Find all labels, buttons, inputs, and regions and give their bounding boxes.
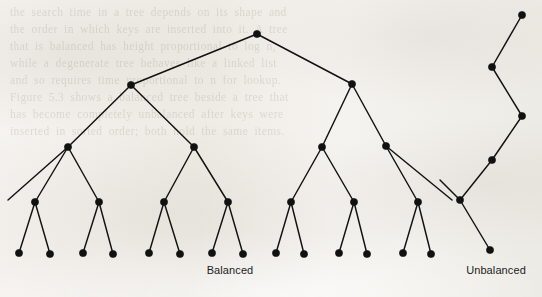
tree-edge (228, 202, 243, 254)
tree-edge (35, 202, 50, 254)
tree-edge (339, 202, 354, 253)
tree-edge (492, 116, 522, 160)
tree-edge (492, 15, 522, 67)
tree-edge (352, 84, 386, 146)
tree-edge (403, 202, 418, 253)
tree-node (127, 81, 134, 88)
tree-node (46, 250, 53, 257)
tree-edge (68, 147, 99, 202)
tree-node (64, 143, 71, 150)
tree-node (31, 198, 38, 205)
tree-edge (83, 202, 99, 253)
tree-node (208, 249, 215, 256)
tree-edge (322, 147, 354, 202)
tree-node (399, 249, 406, 256)
tree-node (300, 250, 307, 257)
tree-node (109, 250, 116, 257)
tree-edge (492, 67, 522, 116)
tree-figure: the search time in a tree depends on its… (0, 0, 542, 297)
tree-node (176, 250, 183, 257)
tree-node (287, 198, 294, 205)
tree-edge (164, 147, 194, 202)
tree-edge (35, 147, 68, 202)
tree-node (348, 80, 355, 87)
tree-edge (322, 84, 352, 147)
tree-node (350, 198, 357, 205)
tree-node (488, 63, 495, 70)
tree-node (95, 198, 102, 205)
tree-node (427, 250, 434, 257)
tree-nodes-balanced (15, 30, 434, 257)
tree-edge-clipped (8, 147, 68, 200)
tree-edge (291, 147, 322, 202)
tree-edge (276, 202, 291, 253)
tree-edge (354, 202, 367, 254)
tree-edge (99, 202, 113, 254)
tree-node (253, 30, 260, 37)
tree-node (518, 112, 525, 119)
tree-edge (386, 146, 418, 202)
tree-node (456, 196, 463, 203)
tree-diagram-canvas (0, 0, 542, 297)
tree-node (382, 142, 389, 149)
tree-edge-clipped (440, 180, 460, 200)
tree-edge (164, 202, 180, 254)
tree-node (15, 249, 22, 256)
tree-node (160, 198, 167, 205)
tree-node (486, 246, 493, 253)
tree-edge (19, 202, 35, 253)
tree-edge (131, 34, 257, 85)
tree-node (363, 250, 370, 257)
tree-caption-unbalanced: Unbalanced (466, 264, 526, 276)
tree-node (145, 249, 152, 256)
nodes-layer (15, 11, 525, 257)
tree-edge (68, 85, 131, 147)
tree-node (239, 250, 246, 257)
tree-node (518, 11, 525, 18)
tree-edge (212, 202, 228, 253)
edges-layer (8, 15, 522, 254)
tree-node (488, 156, 495, 163)
tree-edge (291, 202, 304, 254)
tree-edge-clipped (386, 146, 452, 200)
tree-node (335, 249, 342, 256)
tree-node (318, 143, 325, 150)
tree-caption-balanced: Balanced (207, 264, 254, 276)
tree-edge (194, 147, 228, 202)
tree-edge (149, 202, 164, 253)
tree-node (272, 249, 279, 256)
tree-nodes-unbalanced (456, 11, 525, 253)
tree-node (414, 198, 421, 205)
tree-node (79, 249, 86, 256)
tree-edge (460, 200, 490, 250)
tree-edge (418, 202, 431, 254)
tree-edge (131, 85, 194, 147)
tree-node (190, 143, 197, 150)
tree-node (224, 198, 231, 205)
tree-edge (460, 160, 492, 200)
tree-edges-unbalanced (440, 15, 522, 250)
tree-edge (257, 34, 352, 84)
